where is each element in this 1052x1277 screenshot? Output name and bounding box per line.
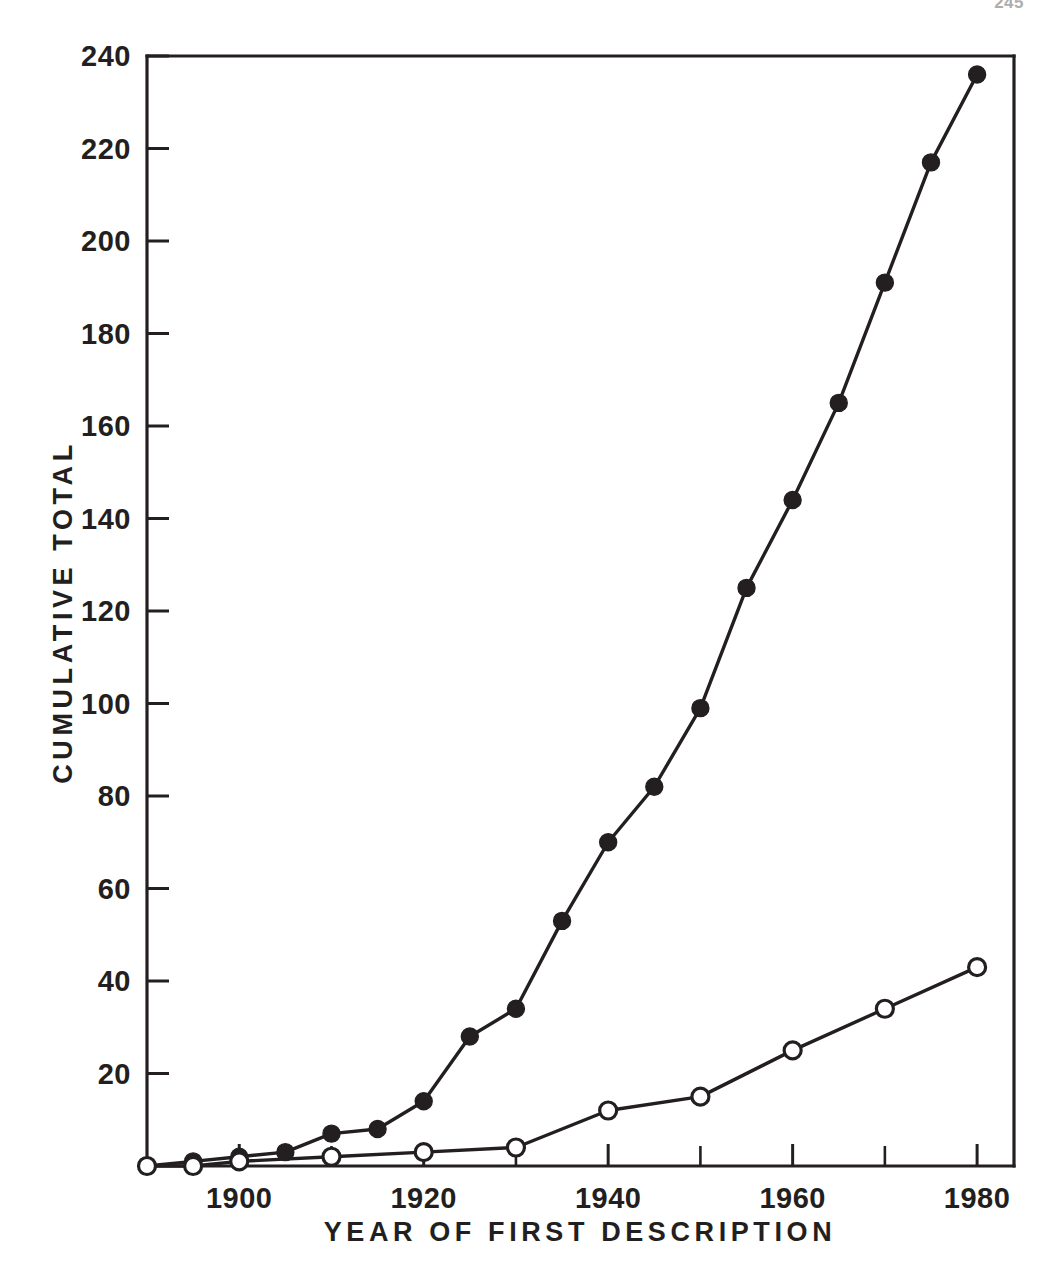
data-point-open-circles — [139, 1158, 156, 1175]
data-point-filled-circles — [646, 778, 663, 795]
y-tick-label: 240 — [81, 40, 131, 72]
data-point-filled-circles — [692, 700, 709, 717]
x-tick-label: 1940 — [575, 1182, 642, 1214]
data-point-open-circles — [600, 1102, 617, 1119]
y-tick-label: 140 — [81, 503, 131, 535]
y-tick-label: 160 — [81, 410, 131, 442]
data-point-filled-circles — [738, 579, 755, 596]
data-point-filled-circles — [922, 154, 939, 171]
data-point-filled-circles — [369, 1121, 386, 1138]
data-point-open-circles — [323, 1148, 340, 1165]
data-point-filled-circles — [600, 834, 617, 851]
x-tick-label: 1900 — [206, 1182, 273, 1214]
data-point-filled-circles — [461, 1028, 478, 1045]
data-point-open-circles — [876, 1000, 893, 1017]
data-point-filled-circles — [507, 1000, 524, 1017]
y-tick-label: 100 — [81, 688, 131, 720]
x-tick-label: 1980 — [944, 1182, 1011, 1214]
y-tick-label: 220 — [81, 133, 131, 165]
y-tick-label: 200 — [81, 225, 131, 257]
x-tick-label: 1960 — [759, 1182, 826, 1214]
data-point-filled-circles — [277, 1144, 294, 1161]
data-point-open-circles — [185, 1158, 202, 1175]
data-point-filled-circles — [784, 492, 801, 509]
y-tick-label: 20 — [98, 1058, 131, 1090]
page-number: 245 — [994, 0, 1024, 13]
y-tick-label: 120 — [81, 595, 131, 627]
series-line-open-circles — [147, 967, 977, 1166]
data-point-open-circles — [231, 1153, 248, 1170]
y-tick-label: 60 — [98, 873, 131, 905]
y-tick-label: 80 — [98, 780, 131, 812]
cumulative-total-line-chart: 20406080100120140160180200220240 1900192… — [0, 0, 1052, 1277]
chart-figure: 245 20406080100120140160180200220240 190… — [0, 0, 1052, 1277]
series-line-filled-circles — [147, 75, 977, 1167]
data-point-open-circles — [784, 1042, 801, 1059]
data-point-filled-circles — [830, 394, 847, 411]
data-point-filled-circles — [415, 1093, 432, 1110]
data-point-filled-circles — [554, 912, 571, 929]
x-axis-title: YEAR OF FIRST DESCRIPTION — [324, 1217, 837, 1247]
x-tick-label: 1920 — [390, 1182, 457, 1214]
data-point-open-circles — [507, 1139, 524, 1156]
data-point-open-circles — [969, 959, 986, 976]
data-point-open-circles — [692, 1088, 709, 1105]
data-point-filled-circles — [876, 274, 893, 291]
y-axis-title: CUMULATIVE TOTAL — [48, 440, 78, 784]
data-point-open-circles — [415, 1144, 432, 1161]
y-tick-label: 40 — [98, 965, 131, 997]
data-point-filled-circles — [323, 1125, 340, 1142]
data-series-layer — [139, 66, 986, 1175]
y-axis-ticks: 20406080100120140160180200220240 — [81, 40, 169, 1090]
data-point-filled-circles — [969, 66, 986, 83]
y-tick-label: 180 — [81, 318, 131, 350]
